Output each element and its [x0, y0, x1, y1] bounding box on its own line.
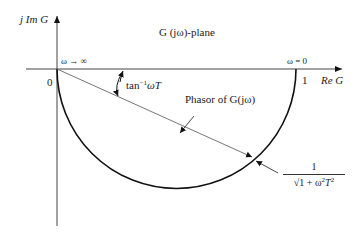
omega-zero-label: ω = 0 [287, 57, 307, 66]
x-axis-label: Re G [321, 75, 343, 86]
magnitude-expression: 1 √1 + ω2T2 [283, 162, 345, 188]
angle-label-tail: ωT [147, 79, 161, 91]
magnitude-denominator-pre: √1 + ω [294, 177, 322, 188]
magnitude-pointer [256, 161, 278, 173]
magnitude-denominator: √1 + ω2T2 [283, 174, 345, 188]
magnitude-denominator-sup2: 2 [331, 176, 335, 184]
magnitude-numerator: 1 [283, 162, 345, 174]
angle-label-sup: −1 [139, 79, 146, 87]
angle-label: tan−1ωT [126, 80, 161, 91]
phasor-label: Phasor of G(jω) [185, 94, 255, 105]
unit-point-label: 1 [302, 75, 308, 86]
y-axis-label: j Im G [20, 14, 48, 25]
omega-infinity-label: ω → ∞ [61, 57, 87, 66]
y-axis-label-text: j Im G [20, 13, 48, 25]
polar-plot-diagram: j Im G G (jω)-plane ω → ∞ ω = 0 0 1 Re G… [0, 0, 358, 237]
angle-label-base: tan [126, 79, 139, 91]
phasor-label-leader [180, 116, 194, 133]
origin-label: 0 [47, 77, 53, 88]
plane-title: G (jω)-plane [159, 27, 215, 38]
polar-locus-semicircle [57, 69, 296, 189]
